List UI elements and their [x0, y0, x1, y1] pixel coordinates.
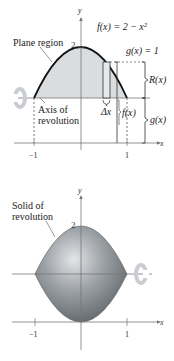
g-label: g(x) = 1: [126, 45, 159, 56]
axis-label-line1: Axis of: [38, 104, 68, 115]
solid-label-line1: Solid of: [12, 200, 44, 211]
plane-region-leader: [40, 47, 52, 62]
function-label: f(x) = 2 − x²: [97, 21, 147, 32]
g-brace: [142, 98, 148, 143]
R-brace: [142, 62, 148, 98]
x-tick-neg1-bottom: −1: [29, 329, 38, 340]
g-brace-label: g(x): [150, 114, 166, 125]
delta-x-label: Δx: [101, 106, 111, 117]
solid-leader: [46, 221, 55, 237]
plane-region-label: Plane region: [13, 37, 63, 48]
y-axis-label-bottom: y: [78, 185, 82, 196]
representative-rectangle: [103, 62, 110, 98]
x-tick-1-bottom: 1: [125, 329, 129, 340]
y-tick-2-bottom: 2: [71, 220, 76, 231]
f-label: f(x): [122, 107, 136, 118]
solid-label-line2: revolution: [12, 211, 53, 222]
axis-leader: [40, 98, 45, 103]
axis-label-line2: revolution: [38, 115, 79, 126]
x-tick-neg1: −1: [29, 150, 38, 161]
x-axis-label: x: [160, 138, 164, 149]
x-tick-1: 1: [125, 150, 129, 161]
y-axis-label: y: [78, 5, 82, 16]
x-axis-label-bottom: x: [160, 317, 164, 328]
R-label: R(x): [149, 74, 166, 85]
y-tick-2: 2: [71, 40, 76, 51]
